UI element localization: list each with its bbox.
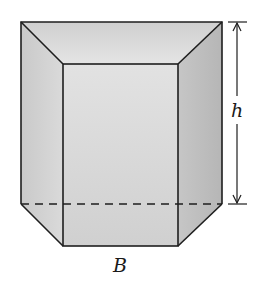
height-label: h (231, 99, 243, 121)
base-label: B (112, 254, 127, 276)
front-face (63, 64, 178, 246)
frustum-diagram: h B (0, 0, 259, 281)
